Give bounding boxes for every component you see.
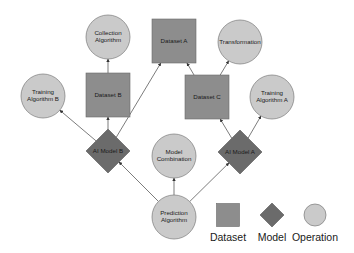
dataset-a-label: Dataset A <box>161 37 189 44</box>
collection-algorithm-label: Algorithm <box>95 36 121 43</box>
training-algorithm-b-label: Algorithm B <box>27 95 59 102</box>
node-training-algorithm-a[interactable]: TrainingAlgorithm A <box>250 75 294 119</box>
ai-model-a-label: AI Model A <box>225 148 256 155</box>
edge-prediction-algorithm-to-ai-model-a <box>190 163 229 202</box>
training-algorithm-b-label: Training <box>32 88 55 95</box>
node-model-combination[interactable]: ModelCombination <box>152 134 196 178</box>
node-training-algorithm-b[interactable]: TrainingAlgorithm B <box>21 74 65 118</box>
node-prediction-algorithm[interactable]: PredictionAlgorithm <box>152 195 196 239</box>
legend-diamond-icon <box>260 203 284 227</box>
legend-item-model: Model <box>258 203 287 243</box>
node-transformation[interactable]: Transformation <box>218 20 262 64</box>
training-algorithm-a-label: Algorithm A <box>256 96 289 103</box>
legend-item-operation: Operation <box>292 204 338 243</box>
model-combination-label: Model <box>166 148 183 155</box>
legend-item-dataset: Dataset <box>210 204 246 244</box>
node-dataset-b[interactable]: Dataset B <box>86 73 130 117</box>
ai-model-b-label: AI Model B <box>93 147 123 154</box>
legend-square-icon <box>217 204 240 227</box>
dataset-c-label: Dataset C <box>193 93 221 100</box>
edge-ai-model-a-to-dataset-c <box>220 119 232 138</box>
workflow-diagram: CollectionAlgorithmDataset ATransformati… <box>0 0 354 253</box>
dataset-b-label: Dataset B <box>94 91 121 98</box>
transformation-label: Transformation <box>219 38 261 45</box>
node-dataset-a[interactable]: Dataset A <box>152 19 196 63</box>
node-dataset-c[interactable]: Dataset C <box>185 75 229 119</box>
legend-label-model: Model <box>258 231 287 243</box>
edge-prediction-algorithm-to-ai-model-b <box>119 162 158 201</box>
legend-label-dataset: Dataset <box>210 231 246 243</box>
legend: DatasetModelOperation <box>210 203 338 243</box>
nodes-layer: CollectionAlgorithmDataset ATransformati… <box>21 15 294 239</box>
edge-ai-model-a-to-training-algorithm-a <box>248 116 261 138</box>
legend-circle-icon <box>304 204 326 226</box>
prediction-algorithm-label: Prediction <box>160 209 188 216</box>
prediction-algorithm-label: Algorithm <box>161 216 187 223</box>
collection-algorithm-label: Collection <box>94 29 122 36</box>
edge-dataset-c-to-dataset-a <box>187 63 194 75</box>
model-combination-label: Combination <box>157 155 192 162</box>
edge-dataset-c-to-transformation <box>220 61 228 75</box>
training-algorithm-a-label: Training <box>261 89 284 96</box>
node-collection-algorithm[interactable]: CollectionAlgorithm <box>86 15 130 59</box>
legend-label-operation: Operation <box>292 231 338 243</box>
